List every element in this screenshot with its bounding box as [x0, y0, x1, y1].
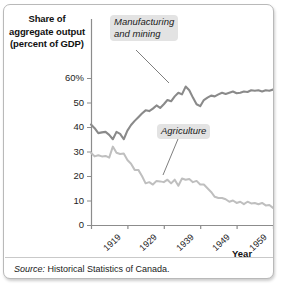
y-tick-label: 30	[40, 146, 84, 158]
source-text: Historical Statistics of Canada.	[48, 264, 170, 274]
y-tick-label: 40	[40, 121, 84, 133]
y-tick-label: 20	[40, 170, 84, 182]
series-label-manufacturing-line1: Manufacturing	[114, 16, 174, 28]
plot-area	[4, 5, 274, 279]
series-line-agriculture	[91, 147, 273, 208]
y-tick-label: 0	[40, 219, 84, 231]
source-prefix: Source:	[14, 264, 45, 274]
series-label-agriculture-text: Agriculture	[161, 125, 206, 136]
y-tick-label: 50	[40, 97, 84, 109]
y-tick-label: 60%	[40, 72, 84, 84]
series-label-agriculture: Agriculture	[157, 124, 210, 139]
series-label-manufacturing-line2: and mining	[114, 28, 174, 40]
source-note: Source: Historical Statistics of Canada.	[14, 264, 170, 274]
source-divider	[5, 257, 274, 258]
y-tick-label: 10	[40, 195, 84, 207]
chart-figure: Share of aggregate output (percent of GD…	[3, 4, 274, 279]
series-label-manufacturing: Manufacturing and mining	[110, 15, 178, 41]
plot-svg	[4, 5, 274, 279]
